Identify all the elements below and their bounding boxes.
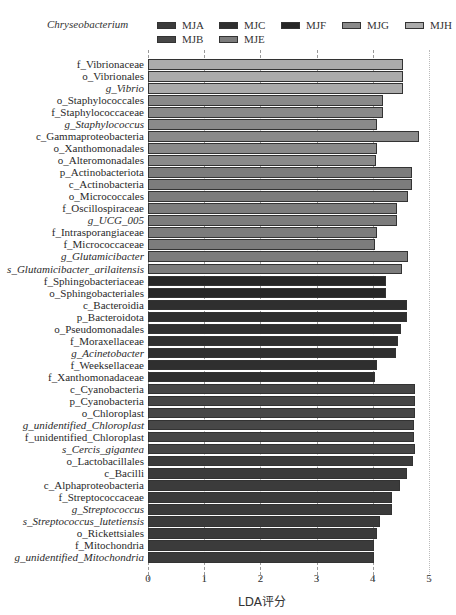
lda-bar (148, 468, 407, 479)
lda-bar (148, 432, 414, 443)
x-tick-label: 0 (145, 572, 151, 584)
lda-bar (148, 239, 375, 250)
lda-bar (148, 480, 400, 491)
lda-bar (148, 504, 392, 515)
lda-bar (148, 396, 415, 407)
lda-bar (148, 155, 376, 166)
legend-item-mjg: MJG (342, 18, 389, 32)
legend-item-mje: MJE (219, 32, 265, 46)
legend-label: MJG (367, 19, 389, 31)
lda-bar (148, 251, 408, 262)
bar-row: g_unidentified_Mitochondria (0, 551, 456, 566)
lda-bar (148, 348, 396, 359)
lda-bar (148, 227, 377, 238)
bar-plot: f_Vibrionaceaeo_Vibrionalesg_Vibrioo_Sta… (0, 58, 456, 578)
lda-bar (148, 71, 403, 82)
lda-bar (148, 143, 377, 154)
legend-swatch-mjc (219, 22, 238, 29)
lda-bar (148, 179, 412, 190)
x-axis-label: LDA评分 (238, 592, 286, 609)
lda-bar (148, 324, 401, 335)
lda-bar (148, 492, 392, 503)
lda-bar (148, 372, 375, 383)
category-label: g_unidentified_Mitochondria (14, 550, 144, 564)
legend-swatch-mjf (281, 22, 300, 29)
lda-bar (148, 276, 386, 287)
legend-swatch-mje (219, 36, 238, 43)
lda-bar (148, 300, 407, 311)
legend-label: MJH (430, 19, 452, 31)
lda-bar (148, 540, 374, 551)
lda-bar (148, 288, 386, 299)
lda-bar (148, 119, 377, 130)
lda-bar (148, 456, 413, 467)
lda-bar (148, 167, 412, 178)
legend-swatch-mjg (342, 22, 361, 29)
legend-item-mjb: MJB (157, 32, 203, 46)
x-tick-label: 2 (258, 572, 264, 584)
legend-swatch-mjh (405, 22, 424, 29)
lda-bar (148, 83, 403, 94)
legend-swatch-mjb (157, 36, 176, 43)
lda-bar (148, 264, 402, 275)
legend-label: MJF (306, 19, 326, 31)
lda-bar (148, 384, 415, 395)
lda-bar (148, 360, 377, 371)
lda-bar (148, 528, 377, 539)
legend-item-mjf: MJF (281, 18, 326, 32)
lda-bar (148, 420, 414, 431)
lda-bar (148, 552, 374, 563)
legend-item-mjc: MJC (219, 18, 265, 32)
lda-bar (148, 131, 419, 142)
x-tick-label: 1 (201, 572, 207, 584)
x-tick-label: 3 (314, 572, 320, 584)
lda-bar (148, 59, 403, 70)
legend-label: MJC (244, 19, 265, 31)
lda-bar (148, 408, 415, 419)
lda-bar (148, 215, 397, 226)
legend-label: MJB (182, 33, 203, 45)
lda-bar (148, 336, 398, 347)
lda-bar (148, 516, 380, 527)
lda-bar (148, 203, 397, 214)
legend-item-mja: MJA (157, 18, 204, 32)
lda-bar (148, 107, 383, 118)
lda-bar (148, 312, 407, 323)
legend-swatch-mja (157, 22, 176, 29)
legend-label: MJA (182, 19, 204, 31)
x-tick-label: 4 (370, 572, 376, 584)
legend-item-mjh: MJH (405, 18, 452, 32)
legend-label: MJE (244, 33, 265, 45)
lda-bar (148, 191, 408, 202)
legend-title: Chryseobacterium (47, 18, 128, 30)
lda-bar (148, 444, 415, 455)
x-tick-label: 5 (426, 572, 432, 584)
lda-bar (148, 95, 383, 106)
